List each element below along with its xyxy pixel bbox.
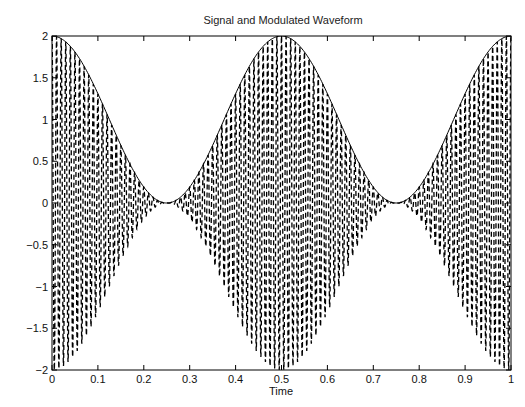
y-tick-label: −1.5 [26,322,48,334]
plot-area [52,36,511,370]
x-tick-label: 0.5 [274,373,289,385]
x-tick-label: 0.4 [228,373,243,385]
series-layer [52,36,511,370]
x-tick-label: 0.2 [136,373,151,385]
y-tick-label: 2 [42,30,48,42]
x-tick-label: 0.7 [366,373,381,385]
x-tick-label: 1 [508,373,514,385]
chart-title: Signal and Modulated Waveform [203,14,362,26]
chart: Signal and Modulated Waveform 00.10.20.3… [0,0,525,407]
y-tick-label: 0 [42,197,48,209]
y-tick-label: −1 [35,281,48,293]
modulated-waveform-line [52,36,511,370]
y-tick-label: −2 [35,364,48,376]
y-tick-label: −0.5 [26,239,48,251]
x-tick-label: 0.6 [320,373,335,385]
x-tick-label: 0.1 [90,373,105,385]
y-tick-label: 1 [42,114,48,126]
x-axis-label: Time [269,385,293,397]
x-tick-label: 0 [49,373,55,385]
x-tick-label: 0.3 [182,373,197,385]
x-tick-label: 0.8 [412,373,427,385]
y-tick-label: 0.5 [33,155,48,167]
x-tick-label: 0.9 [457,373,472,385]
y-tick-label: 1.5 [33,72,48,84]
